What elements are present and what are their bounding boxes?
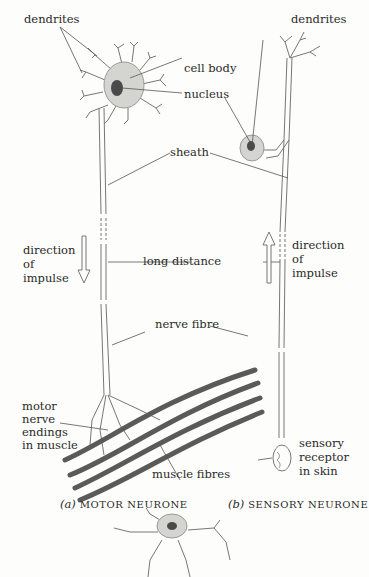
sensory-direction-label-2: of <box>292 253 303 266</box>
motor-nucleus <box>111 80 123 96</box>
sensory-receptor <box>273 445 291 471</box>
sensory-neurone-caption: (b) SENSORY NEURONE <box>228 497 368 511</box>
motor-direction-label-2: of <box>23 258 34 271</box>
sensory-direction-label-1: direction <box>292 239 344 252</box>
motor-cell-body <box>104 62 144 108</box>
sensory-dendrites-label: dendrites <box>291 13 346 26</box>
motor-nucleus-label: nucleus <box>184 88 229 101</box>
motor-direction-label-1: direction <box>23 244 75 257</box>
motor-caption-text: MOTOR NEURONE <box>80 499 188 510</box>
long-distance-label: long distance <box>143 255 221 268</box>
motor-direction-label-3: impulse <box>23 272 69 285</box>
motor-cell-body-label: cell body <box>184 62 236 75</box>
sensory-impulse-arrow-up-icon <box>263 232 275 283</box>
sensory-receptor-label-2: receptor <box>299 451 349 464</box>
sensory-direction-label-3: impulse <box>292 267 338 280</box>
sensory-receptor-label-1: sensory <box>299 437 344 450</box>
sensory-caption-text: SENSORY NEURONE <box>248 499 368 510</box>
sensory-receptor-label-3: in skin <box>299 465 338 478</box>
nerve-fibre-label: nerve fibre <box>155 318 219 331</box>
sensory-nucleus <box>247 141 255 151</box>
sensory-caption-letter: (b) <box>228 497 244 511</box>
motor-neurone-caption: (a) MOTOR NEURONE <box>60 497 188 511</box>
motor-axon <box>90 108 160 455</box>
bottom-nucleus <box>167 522 177 530</box>
motor-endings-label-4: in muscle <box>22 439 78 452</box>
motor-caption-letter: (a) <box>60 497 76 511</box>
sheath-label: sheath <box>170 146 209 159</box>
motor-impulse-arrow-down-icon <box>78 236 90 283</box>
muscle-fibres-label: muscle fibres <box>152 468 230 481</box>
impulse-arrows <box>78 236 90 283</box>
motor-dendrites-label: dendrites <box>24 13 79 26</box>
